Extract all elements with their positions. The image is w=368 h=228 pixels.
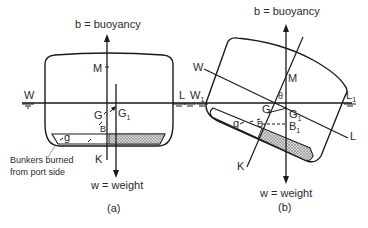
- waterline-l1-b: L1: [346, 89, 356, 103]
- point-k-a: K: [95, 153, 103, 165]
- remaining-bunkers-a: [109, 134, 165, 144]
- buoyancy-arrowhead-a: [104, 34, 110, 42]
- panel-b: b = buoyancy W W1 M θ L1 G G1 B B1 L g K…: [184, 5, 356, 213]
- point-small-g-a: g: [64, 131, 70, 143]
- point-b1-b: B1: [289, 120, 300, 134]
- waterline-w-b: W: [193, 61, 204, 73]
- point-m-a: M: [93, 62, 102, 74]
- waterline-l-a: L: [179, 89, 185, 101]
- point-k-b: K: [237, 160, 245, 172]
- water-symbol-right-b: [344, 104, 356, 106]
- g-path-dash-a: [104, 112, 106, 114]
- annotation-line1-a: Bunkers burned: [10, 155, 74, 165]
- caption-a: (a): [107, 202, 120, 214]
- annotation-line2-a: from port side: [10, 167, 65, 177]
- weight-label-b: w = weight: [259, 187, 312, 199]
- caption-b: (b): [278, 201, 291, 213]
- point-b-b: B: [257, 119, 263, 129]
- weight-label-a: w = weight: [90, 179, 143, 191]
- buoyancy-label-a: b = buoyancy: [75, 18, 141, 30]
- g-marker-a: [88, 139, 91, 142]
- point-g-a: G: [94, 109, 103, 121]
- ship-stability-diagram: b = buoyancy M W L G G1 B g K Bunkers bu…: [0, 0, 368, 228]
- weight-arrowhead-b: [283, 176, 289, 184]
- waterline-w1-b: W1: [190, 89, 204, 103]
- diagram-canvas: b = buoyancy M W L G G1 B g K Bunkers bu…: [0, 0, 368, 228]
- point-b-a: B: [100, 124, 106, 134]
- buoyancy-label-b: b = buoyancy: [254, 5, 320, 17]
- point-g-b: G: [262, 103, 271, 115]
- water-symbol-left-b: [184, 104, 208, 106]
- angle-theta-b: θ: [278, 91, 283, 101]
- waterline-w-a: W: [24, 89, 35, 101]
- waterline-l-b: L: [350, 130, 356, 142]
- panel-a: b = buoyancy M W L G G1 B g K Bunkers bu…: [10, 18, 185, 214]
- g-marker-b: [240, 122, 244, 124]
- buoyancy-arrowhead-b: [283, 24, 289, 32]
- point-m-b: M: [288, 72, 297, 84]
- g-dash-a: [60, 138, 63, 140]
- g-dash-b: [250, 121, 253, 122]
- point-g1-a: G1: [118, 107, 131, 121]
- weight-arrowhead-a: [113, 170, 119, 178]
- water-symbol-left-a: [22, 104, 34, 108]
- point-small-g-b: g: [233, 117, 239, 129]
- water-symbol-right-a: [173, 104, 185, 106]
